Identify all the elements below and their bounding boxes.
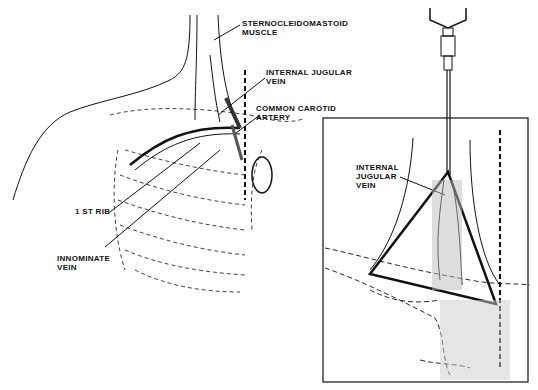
shoulder-outline <box>13 15 190 200</box>
label-internal-jugular-vein: INTERNAL JUGULAR VEIN <box>266 68 352 86</box>
diagram-drawing <box>0 0 538 390</box>
label-inset-internal-jugular-vein: INTERNAL JUGULAR VEIN <box>356 163 399 190</box>
label-sternocleidomastoid: STERNOCLEIDOMASTOID MUSCLE <box>242 19 348 37</box>
anatomical-diagram: STERNOCLEIDOMASTOID MUSCLE INTERNAL JUGU… <box>0 0 538 390</box>
label-innominate-vein: INNOMINATE VEIN <box>57 254 110 272</box>
label-first-rib: 1 ST RIB <box>75 207 110 216</box>
label-common-carotid-artery: COMMON CAROTID ARTERY <box>256 104 336 122</box>
